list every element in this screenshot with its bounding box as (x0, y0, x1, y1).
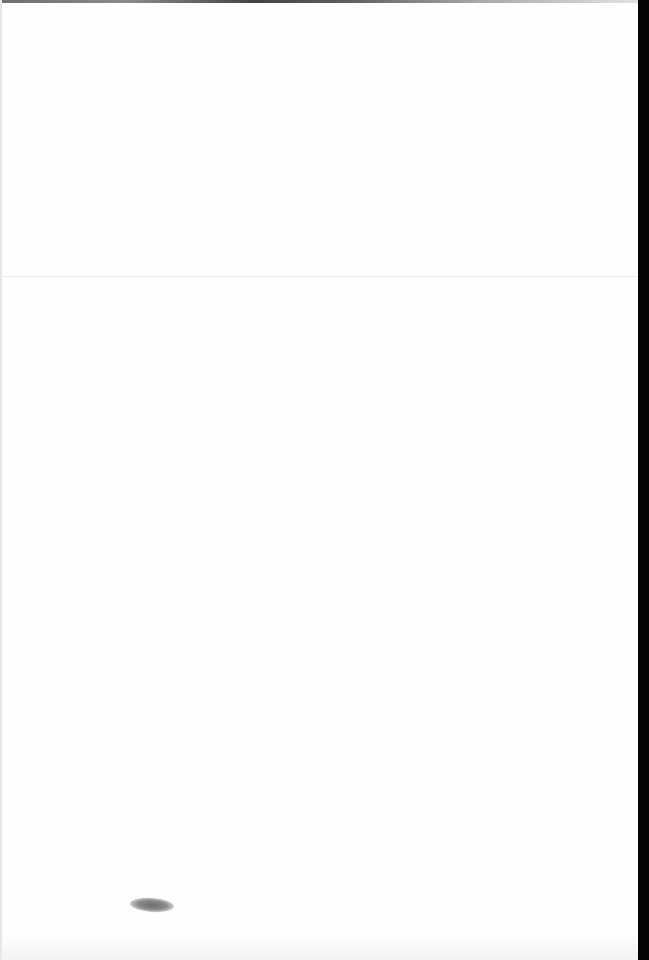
paper-fold-line (0, 276, 638, 277)
scan-right-border (638, 0, 649, 960)
scan-left-edge (0, 0, 2, 960)
scan-bottom-noise (0, 935, 638, 960)
blank-scanned-page (0, 0, 638, 960)
ink-smudge (130, 896, 175, 913)
scan-top-edge (0, 0, 638, 3)
